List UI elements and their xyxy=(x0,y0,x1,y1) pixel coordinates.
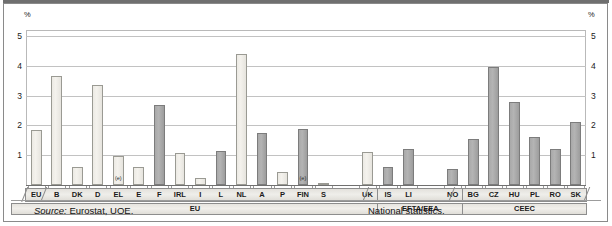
source-label: Source: xyxy=(34,205,67,216)
chart-figure: % % 12345 12345 (e)(e) EUBDKDELEFIRLILNL… xyxy=(0,0,612,226)
footer-divider xyxy=(11,200,601,201)
source-note: Source: Eurostat, UOE. xyxy=(34,205,133,216)
national-statistics-note: National statistics. xyxy=(368,205,445,216)
group-label-ceec: CEEC xyxy=(462,203,588,215)
category-label-bands: EUBDKDELEFIRLILNLAPFINSUKEUISLINOEFTA/EE… xyxy=(0,0,612,226)
source-value: Eurostat, UOE. xyxy=(69,205,133,216)
